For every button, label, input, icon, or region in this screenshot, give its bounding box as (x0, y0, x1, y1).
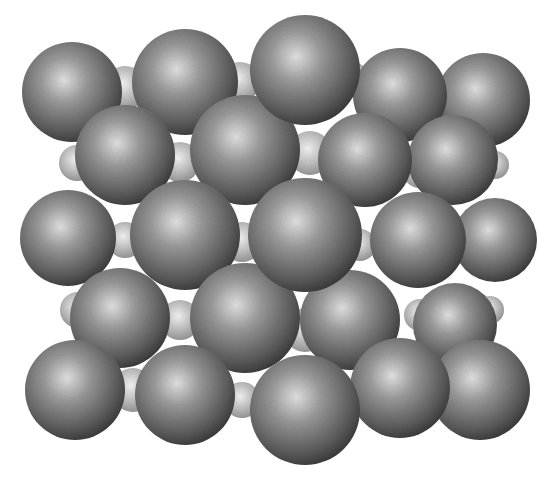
large-sphere (250, 355, 360, 465)
large-sphere (248, 178, 362, 292)
crystal-lattice-illustration (0, 0, 553, 490)
large-sphere (350, 338, 450, 438)
large-sphere (250, 15, 360, 125)
large-spheres (20, 15, 537, 465)
large-sphere (408, 115, 498, 205)
large-sphere (25, 340, 125, 440)
large-sphere (370, 192, 466, 288)
large-sphere (135, 345, 235, 445)
